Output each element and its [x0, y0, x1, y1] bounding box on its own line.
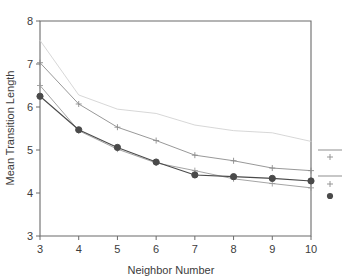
x-axis-title: Neighbor Number: [128, 264, 215, 276]
x-axis-tick-label: 9: [269, 243, 275, 255]
data-point-marker-plus: [153, 138, 159, 144]
y-axis-tick-label: 7: [27, 58, 33, 70]
y-axis-tick-label: 3: [27, 230, 33, 242]
y-axis-tick-label: 4: [27, 187, 33, 199]
chart-container: 345678345678910Neighbor NumberMean Trans…: [0, 0, 345, 280]
data-point-marker-circle: [230, 174, 236, 180]
data-point-marker-plus: [114, 124, 120, 130]
data-point-marker-plus: [308, 168, 314, 174]
x-axis-tick-label: 4: [76, 243, 82, 255]
data-point-marker-plus: [231, 158, 237, 164]
series-line-series-3-plus-lower: [40, 86, 311, 188]
x-axis-tick-label: 3: [37, 243, 43, 255]
data-point-marker-circle: [114, 144, 120, 150]
x-axis-tick-label: 7: [192, 243, 198, 255]
data-point-marker-circle: [192, 172, 198, 178]
y-axis-tick-label: 8: [27, 15, 33, 27]
legend-item[interactable]: [327, 181, 333, 187]
data-point-marker-plus: [269, 165, 275, 171]
x-axis-tick-label: 8: [231, 243, 237, 255]
series-line-series-2-plus-upper: [40, 63, 311, 171]
legend-item[interactable]: [327, 193, 333, 199]
data-point-marker-circle: [308, 178, 314, 184]
y-axis-tick-label: 5: [27, 144, 33, 156]
data-point-marker-circle: [37, 93, 43, 99]
x-axis-tick-label: 10: [305, 243, 317, 255]
data-point-marker-circle: [153, 159, 159, 165]
data-point-marker-circle: [76, 127, 82, 133]
line-chart: 345678345678910Neighbor NumberMean Trans…: [0, 0, 345, 280]
data-point-marker-circle: [269, 175, 275, 181]
data-point-marker-plus: [308, 185, 314, 191]
x-axis-tick-label: 6: [153, 243, 159, 255]
data-point-marker-plus: [192, 152, 198, 158]
series-line-series-1-light: [40, 40, 311, 141]
y-axis-tick-label: 6: [27, 101, 33, 113]
y-axis-title: Mean Transition Length: [4, 71, 16, 186]
x-axis-tick-label: 5: [114, 243, 120, 255]
legend-item[interactable]: [327, 154, 333, 160]
